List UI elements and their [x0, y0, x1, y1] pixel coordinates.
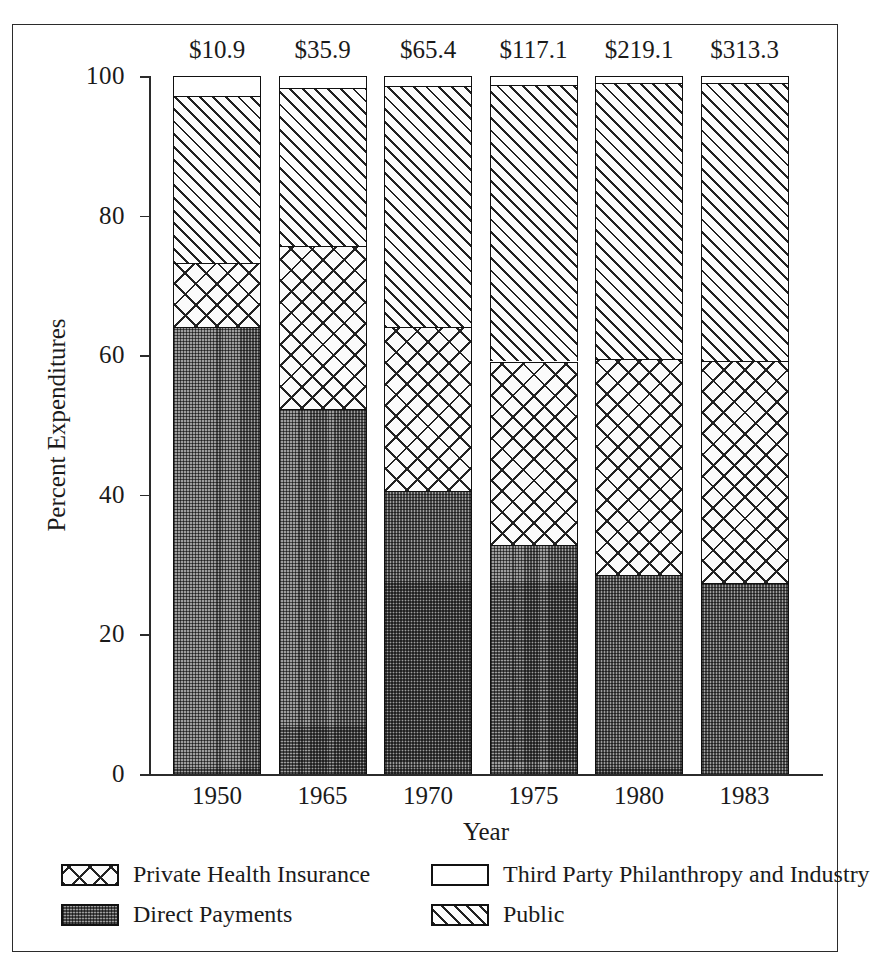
y-tick-20	[140, 634, 149, 636]
bar-group-1970[interactable]: $65.41970	[384, 76, 472, 774]
x-tick-label-1950: 1950	[192, 782, 242, 810]
bar-segment-public-1983[interactable]	[701, 83, 789, 361]
bar-segment-third-party-philanthropy-and-industry-1965[interactable]	[279, 76, 367, 88]
legend-item-third-party-philanthropy-and-industry[interactable]: Third Party Philanthropy and Industry	[431, 861, 870, 888]
x-axis-title: Year	[463, 818, 509, 846]
legend-swatch-white-icon	[431, 864, 489, 886]
bar-segment-private-health-insurance-1965[interactable]	[279, 246, 367, 409]
legend-label-public: Public	[503, 901, 564, 928]
bar-segment-third-party-philanthropy-and-industry-1980[interactable]	[595, 76, 683, 83]
bar-group-1983[interactable]: $313.31983	[701, 76, 789, 774]
bar-segment-direct-payments-1950[interactable]	[173, 327, 261, 774]
bar-stack	[173, 76, 261, 774]
bar-segment-private-health-insurance-1980[interactable]	[595, 359, 683, 575]
bar-segment-public-1970[interactable]	[384, 86, 472, 327]
bar-stack	[384, 76, 472, 774]
y-tick-label-20: 20	[45, 620, 125, 648]
x-tick-label-1965: 1965	[298, 782, 348, 810]
y-tick-label-0: 0	[45, 760, 125, 788]
bar-segment-private-health-insurance-1950[interactable]	[173, 263, 261, 327]
bar-segment-public-1975[interactable]	[490, 85, 578, 361]
bar-segment-private-health-insurance-1983[interactable]	[701, 361, 789, 583]
legend-label-third-party-philanthropy-and-industry: Third Party Philanthropy and Industry	[503, 861, 870, 888]
bar-segment-public-1950[interactable]	[173, 96, 261, 263]
bar-total-label-1975: $117.1	[500, 36, 568, 64]
bar-segment-direct-payments-1970[interactable]	[384, 491, 472, 774]
bar-segment-private-health-insurance-1970[interactable]	[384, 327, 472, 491]
bar-segment-third-party-philanthropy-and-industry-1970[interactable]	[384, 76, 472, 86]
figure-caption	[14, 956, 864, 970]
bar-segment-third-party-philanthropy-and-industry-1950[interactable]	[173, 76, 261, 96]
legend-item-public[interactable]: Public	[431, 901, 564, 928]
figure-frame: 100 80 60 40 20 0 Percent Expenditures Y…	[12, 24, 838, 952]
bar-group-1975[interactable]: $117.11975	[490, 76, 578, 774]
bar-segment-direct-payments-1965[interactable]	[279, 409, 367, 774]
legend-label-private-health-insurance: Private Health Insurance	[133, 861, 370, 888]
y-axis-line	[149, 76, 151, 774]
bar-total-label-1983: $313.3	[710, 36, 779, 64]
bar-total-label-1965: $35.9	[294, 36, 350, 64]
x-tick-label-1980: 1980	[614, 782, 664, 810]
bar-segment-direct-payments-1983[interactable]	[701, 583, 789, 774]
x-tick-label-1983: 1983	[720, 782, 770, 810]
bar-segment-direct-payments-1980[interactable]	[595, 575, 683, 774]
bar-stack	[490, 76, 578, 774]
bar-stack	[701, 76, 789, 774]
legend-item-private-health-insurance[interactable]: Private Health Insurance	[61, 861, 370, 888]
y-tick-100	[140, 76, 149, 78]
x-axis-line	[149, 774, 823, 776]
bar-segment-third-party-philanthropy-and-industry-1983[interactable]	[701, 76, 789, 83]
y-tick-80	[140, 216, 149, 218]
y-axis-title: Percent Expenditures	[43, 318, 71, 531]
bar-total-label-1970: $65.4	[400, 36, 456, 64]
bar-segment-public-1965[interactable]	[279, 88, 367, 246]
legend: Private Health Insurance Third Party Phi…	[61, 861, 821, 931]
legend-label-direct-payments: Direct Payments	[133, 901, 292, 928]
x-tick-label-1970: 1970	[403, 782, 453, 810]
bar-segment-private-health-insurance-1975[interactable]	[490, 362, 578, 546]
y-tick-40	[140, 495, 149, 497]
y-tick-60	[140, 355, 149, 357]
bar-group-1965[interactable]: $35.91965	[279, 76, 367, 774]
legend-swatch-stipple-icon	[61, 904, 119, 926]
bar-stack	[279, 76, 367, 774]
legend-item-direct-payments[interactable]: Direct Payments	[61, 901, 292, 928]
bar-total-label-1950: $10.9	[189, 36, 245, 64]
bar-segment-public-1980[interactable]	[595, 83, 683, 359]
plot-area: 100 80 60 40 20 0 Percent Expenditures Y…	[149, 76, 839, 774]
legend-swatch-diagonal-hatch-icon	[431, 904, 489, 926]
bar-stack	[595, 76, 683, 774]
bar-total-label-1980: $219.1	[605, 36, 674, 64]
bar-group-1950[interactable]: $10.91950	[173, 76, 261, 774]
bar-group-1980[interactable]: $219.11980	[595, 76, 683, 774]
y-tick-0	[140, 774, 149, 776]
bar-segment-direct-payments-1975[interactable]	[490, 545, 578, 774]
y-tick-label-100: 100	[45, 62, 125, 90]
x-tick-label-1975: 1975	[509, 782, 559, 810]
legend-swatch-crosshatch-icon	[61, 864, 119, 886]
bar-segment-third-party-philanthropy-and-industry-1975[interactable]	[490, 76, 578, 85]
y-tick-label-80: 80	[45, 202, 125, 230]
